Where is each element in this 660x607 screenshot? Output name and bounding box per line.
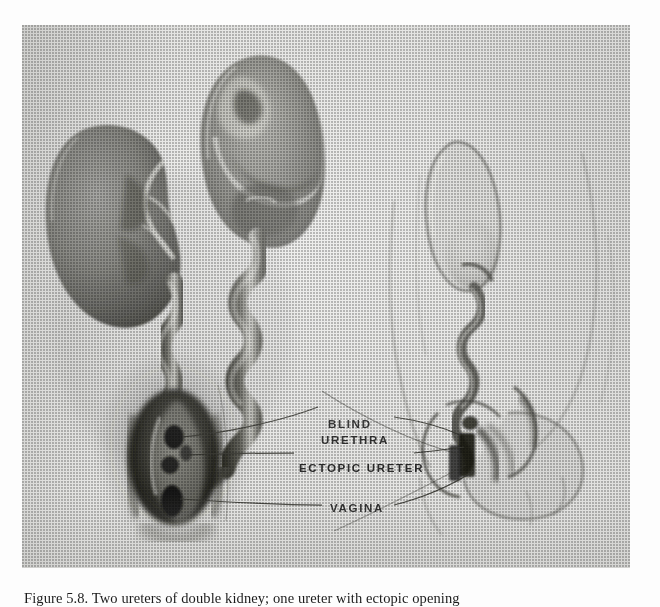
anatomical-illustration <box>22 25 630 568</box>
page: BLIND URETHRA ECTOPIC URETER VAGINA Figu… <box>0 0 660 607</box>
bladder <box>426 142 501 291</box>
sagittal-perineum <box>420 387 583 535</box>
label-vagina: VAGINA <box>330 502 384 514</box>
figure-plate: BLIND URETHRA ECTOPIC URETER VAGINA <box>22 25 630 568</box>
label-ectopic-ureter: ECTOPIC URETER <box>299 462 424 474</box>
figure-caption-text: Figure 5.8. Two ureters of double kidney… <box>24 590 460 606</box>
label-blind-urethra-line2: URETHRA <box>321 434 389 446</box>
sagittal-view <box>390 142 614 535</box>
label-blind-urethra-line1: BLIND <box>328 418 372 430</box>
figure-caption: Figure 5.8. Two ureters of double kidney… <box>24 589 642 607</box>
